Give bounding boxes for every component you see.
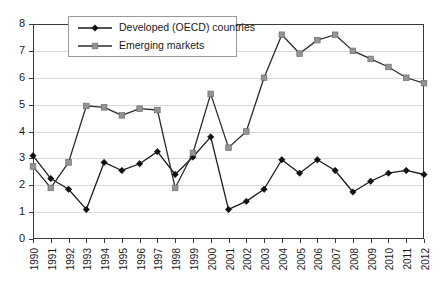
x-axis-tick-labels: 1990199119921993199419951996199719981999… <box>29 248 431 271</box>
y-axis-tick-labels: 012345678 <box>19 17 25 244</box>
data-point <box>119 167 125 173</box>
x-axis-label: 1996 <box>136 248 147 271</box>
x-axis-label: 1992 <box>65 248 76 271</box>
y-axis-label: 1 <box>19 205 25 217</box>
legend-label: Developed (OECD) countries <box>119 21 255 33</box>
data-point <box>403 75 409 81</box>
chart-legend: Developed (OECD) countriesEmerging marke… <box>69 17 255 57</box>
x-axis-label: 2008 <box>349 248 360 271</box>
y-axis-label: 0 <box>19 232 25 244</box>
y-axis-label: 7 <box>19 44 25 56</box>
x-axis-label: 2011 <box>402 248 413 270</box>
x-axis-label: 1999 <box>189 248 200 271</box>
x-axis-label: 2000 <box>207 248 218 271</box>
x-axis-label: 2001 <box>225 248 236 271</box>
data-point <box>30 164 36 170</box>
x-axis-label: 1994 <box>100 248 111 271</box>
data-point <box>367 178 373 184</box>
data-point <box>332 32 338 38</box>
data-point <box>66 160 72 166</box>
chart-container: 012345678 199019911992199319941995199619… <box>0 0 445 284</box>
line-chart: 012345678 199019911992199319941995199619… <box>0 0 445 284</box>
data-point <box>137 106 143 112</box>
x-axis-label: 2010 <box>384 248 395 271</box>
y-axis-label: 3 <box>19 151 25 163</box>
data-point <box>386 64 392 70</box>
data-point <box>155 107 161 113</box>
data-point <box>226 145 232 151</box>
data-point <box>421 171 427 177</box>
data-point <box>84 103 90 109</box>
data-point <box>172 185 178 191</box>
data-point <box>101 159 107 165</box>
legend-label: Emerging markets <box>119 39 204 51</box>
x-axis-label: 2002 <box>242 248 253 271</box>
y-axis-label: 8 <box>19 17 25 29</box>
data-point <box>315 37 321 43</box>
y-axis-label: 5 <box>19 98 25 110</box>
data-point <box>403 167 409 173</box>
x-axis-label: 1997 <box>153 248 164 271</box>
x-axis-label: 2005 <box>296 248 307 271</box>
legend-marker-icon <box>92 43 98 49</box>
x-axis-label: 2006 <box>313 248 324 271</box>
data-point <box>297 51 303 57</box>
data-point <box>190 150 196 156</box>
x-axis-label: 2009 <box>367 248 378 271</box>
x-axis-label: 2003 <box>260 248 271 271</box>
data-point <box>208 91 214 97</box>
x-axis-label: 2007 <box>331 248 342 271</box>
x-axis-label: 1998 <box>171 248 182 271</box>
x-axis-label: 2004 <box>278 248 289 271</box>
data-point <box>385 170 391 176</box>
series-line <box>33 35 424 188</box>
data-point <box>261 75 267 81</box>
data-point <box>225 206 231 212</box>
y-axis-label: 6 <box>19 71 25 83</box>
x-axis-tick-marks <box>34 239 425 243</box>
y-axis-label: 2 <box>19 178 25 190</box>
x-axis-label: 2012 <box>420 248 431 271</box>
x-axis-label: 1991 <box>47 248 58 271</box>
x-axis-label: 1990 <box>29 248 40 271</box>
x-axis-label: 1993 <box>82 248 93 271</box>
data-point <box>279 32 285 38</box>
y-axis-label: 4 <box>19 125 25 137</box>
data-point <box>243 129 249 135</box>
data-point <box>421 80 427 86</box>
data-point <box>48 185 54 191</box>
data-point <box>119 113 125 119</box>
x-axis-label: 1995 <box>118 248 129 271</box>
data-point <box>350 48 356 54</box>
data-point <box>368 56 374 62</box>
data-point <box>101 105 107 111</box>
